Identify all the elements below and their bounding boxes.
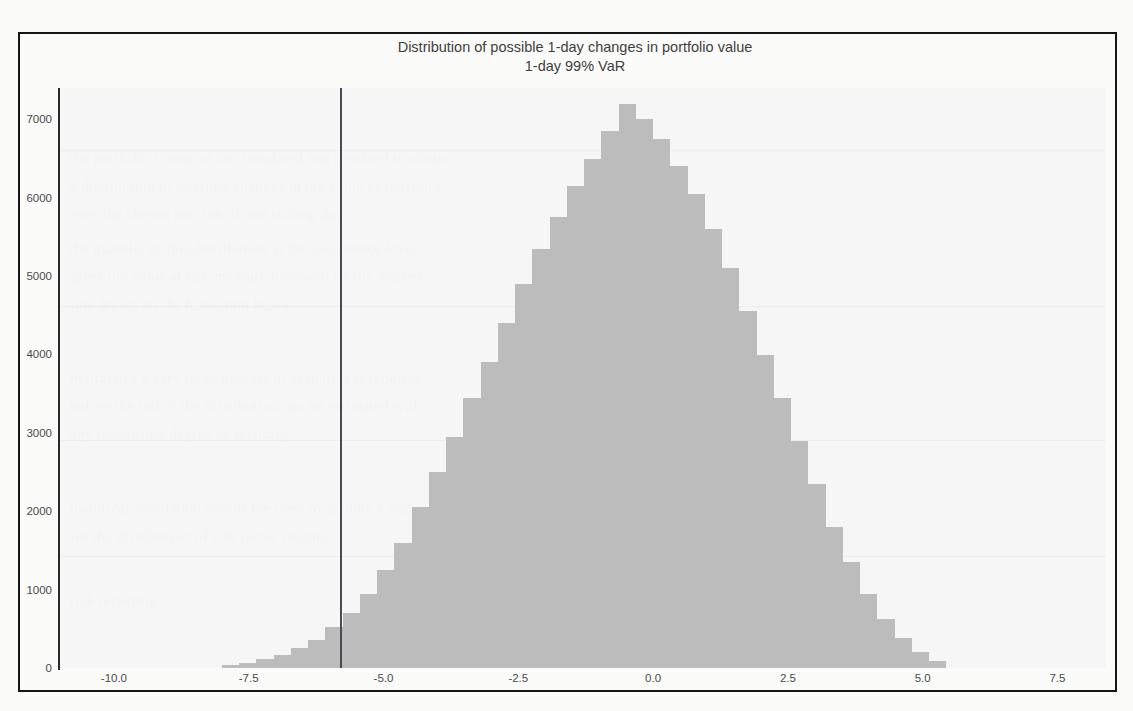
y-tick-label: 6000: [26, 192, 52, 204]
histogram-bar: [429, 472, 446, 668]
x-tick-label: -10.0: [101, 672, 127, 684]
x-tick-label: -2.5: [508, 672, 528, 684]
histogram-bar: [360, 594, 377, 668]
y-tick-label: 1000: [26, 584, 52, 596]
x-tick-label: 0.0: [645, 672, 661, 684]
histogram-bar: [705, 229, 722, 668]
histogram-bar: [636, 119, 653, 668]
histogram-bar: [239, 663, 256, 668]
histogram-bar: [688, 194, 705, 668]
histogram-bar: [877, 619, 894, 668]
histogram-bar: [653, 139, 670, 668]
histogram-bar: [515, 284, 532, 668]
histogram-bar: [860, 594, 877, 668]
y-axis-spine: [58, 88, 60, 670]
histogram-bar: [739, 311, 756, 668]
histogram-bar: [446, 437, 463, 668]
histogram-bar: [550, 217, 567, 668]
histogram-bar: [929, 661, 946, 668]
histogram-bar: [222, 665, 239, 668]
histogram-bar: [291, 648, 308, 668]
histogram-bar: [274, 655, 291, 668]
histogram-bar: [256, 659, 273, 668]
histogram-bar: [412, 507, 429, 668]
histogram-bar: [722, 268, 739, 668]
x-axis-ticks: -10.0-7.5-5.0-2.50.02.55.07.5: [60, 672, 1106, 690]
x-tick-label: 5.0: [915, 672, 931, 684]
x-tick-label: 2.5: [780, 672, 796, 684]
histogram-bar: [567, 186, 584, 668]
y-axis-ticks: 01000200030004000500060007000: [0, 88, 52, 668]
histogram-bar: [343, 613, 360, 668]
y-tick-label: 2000: [26, 505, 52, 517]
scan-band: [60, 150, 1106, 151]
histogram-bar: [895, 638, 912, 668]
y-tick-label: 0: [46, 662, 52, 674]
plot-area: [60, 88, 1106, 668]
histogram-bar: [619, 104, 636, 668]
histogram-bar: [601, 131, 618, 668]
histogram-bar: [584, 159, 601, 668]
y-tick-label: 3000: [26, 427, 52, 439]
histogram-bar: [532, 249, 549, 668]
y-tick-label: 7000: [26, 113, 52, 125]
x-tick-label: -7.5: [239, 672, 259, 684]
histogram-bar: [377, 570, 394, 668]
var-line: [340, 88, 342, 668]
histogram-bar: [394, 543, 411, 668]
histogram-bar: [791, 441, 808, 668]
histogram-bar: [808, 484, 825, 668]
histogram-bar: [774, 398, 791, 668]
histogram-bar: [498, 323, 515, 668]
histogram-bar: [843, 562, 860, 668]
y-tick-label: 4000: [26, 348, 52, 360]
y-tick-label: 5000: [26, 270, 52, 282]
x-tick-label: -5.0: [374, 672, 394, 684]
histogram-bar: [308, 640, 325, 668]
histogram-bar: [670, 166, 687, 668]
histogram-bar: [757, 355, 774, 669]
histogram-bar: [481, 362, 498, 668]
histogram-bar: [826, 527, 843, 668]
x-tick-label: 7.5: [1049, 672, 1065, 684]
histogram-bar: [463, 398, 480, 668]
histogram-bar: [912, 652, 929, 668]
